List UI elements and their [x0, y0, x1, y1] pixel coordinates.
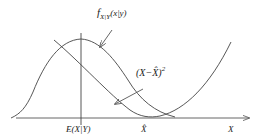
- loss-label: (X−X̂)2: [136, 65, 166, 79]
- loss-pointer: [115, 89, 143, 104]
- estimate-label: X̂: [140, 124, 147, 134]
- density-label: fX|Y(x|y): [97, 6, 127, 21]
- conditional-mean-label: E(X|Y): [65, 124, 90, 134]
- axis-label: X: [227, 124, 234, 134]
- diagram-canvas: fX|Y(x|y) (X−X̂)2 E(X|Y) X̂ X: [0, 0, 257, 138]
- density-curve: [11, 39, 175, 118]
- density-pointer: [100, 30, 112, 47]
